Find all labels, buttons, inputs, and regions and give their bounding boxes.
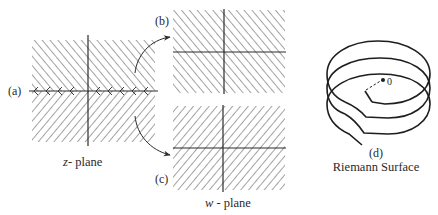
- panel-a-label: (a): [8, 84, 21, 98]
- w-plane-panel-b: (b): [155, 9, 286, 94]
- origin-dashed-line: [366, 80, 382, 90]
- w-plane-panel-c: (c) w - plane: [155, 105, 286, 210]
- riemann-surface-figure: (a) z- plane (b) (c) w - plane: [0, 0, 438, 215]
- riemann-surface-caption: Riemann Surface: [333, 160, 420, 174]
- origin-point: [381, 78, 385, 82]
- z-plane-caption-text: - plane: [68, 155, 103, 169]
- w-plane-caption-text: - plane: [213, 196, 251, 210]
- origin-label: 0: [387, 76, 392, 87]
- z-plane-panel: (a) z- plane: [8, 35, 158, 169]
- riemann-loop-middle: [327, 58, 430, 118]
- panel-c-label: (c): [155, 172, 168, 186]
- w-plane-caption: w - plane: [205, 196, 251, 210]
- riemann-inner-segment: [365, 91, 372, 102]
- panel-b-label: (b): [155, 14, 169, 28]
- z-plane-caption: z- plane: [62, 155, 103, 169]
- riemann-loop-top: [327, 41, 430, 104]
- z-plane-lower-hatch: [32, 91, 155, 142]
- riemann-surface-panel: [327, 41, 430, 145]
- riemann-loop-bottom: [327, 74, 430, 145]
- panel-d-label: (d): [369, 146, 383, 160]
